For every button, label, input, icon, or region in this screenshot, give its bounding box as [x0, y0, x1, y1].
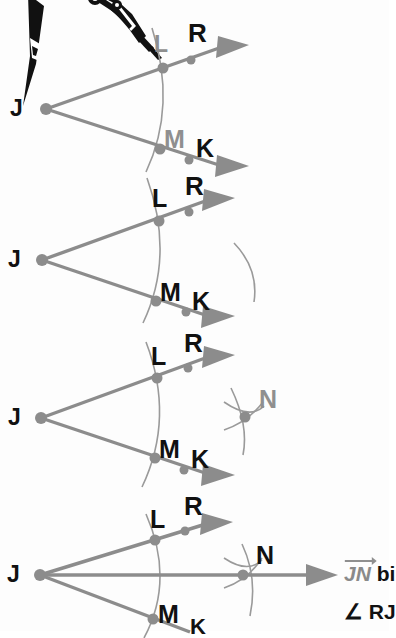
- vector-jn-label: JN: [344, 560, 377, 585]
- point-k: [180, 466, 189, 475]
- ray-jr: [42, 189, 235, 260]
- label-k: K: [190, 614, 206, 638]
- arc-from-point-l: [234, 243, 255, 302]
- point-r: [185, 208, 194, 217]
- vector-jn-text: JN: [344, 562, 371, 585]
- label-l: L: [151, 342, 166, 370]
- vector-arrow-icon: [344, 556, 377, 565]
- panel-4-step-draw-bisector-ray-jn: J L R M K N: [0, 492, 389, 638]
- label-k: K: [196, 134, 214, 162]
- caption-rest-text: bi: [377, 562, 396, 585]
- point-k: [182, 308, 191, 317]
- label-l: L: [152, 184, 167, 212]
- point-l: [158, 63, 169, 74]
- point-l: [152, 373, 163, 384]
- label-r: R: [184, 492, 203, 521]
- point-r: [187, 56, 196, 65]
- label-m: M: [160, 278, 181, 306]
- point-l: [154, 216, 165, 227]
- caption-line-2: ∠ RJ: [344, 600, 396, 624]
- panel-3-step-arcs-intersect-at-n: J L R M K N: [0, 330, 389, 505]
- ray-jn-bisector: [40, 564, 338, 586]
- point-n: [240, 412, 251, 423]
- label-l: L: [150, 505, 165, 533]
- point-j: [40, 103, 52, 115]
- point-l: [150, 535, 161, 546]
- point-j: [35, 412, 47, 424]
- point-r: [181, 527, 190, 536]
- label-r: R: [188, 18, 207, 48]
- point-m: [148, 614, 159, 625]
- label-m: M: [159, 435, 180, 463]
- ray-jr: [41, 346, 235, 418]
- point-n: [238, 570, 249, 581]
- label-m: M: [158, 600, 179, 628]
- compass-needle-leg: [23, 0, 44, 106]
- caption-line-1: JN bi: [344, 562, 395, 586]
- label-j: J: [7, 561, 20, 587]
- point-j: [34, 569, 46, 581]
- label-k: K: [191, 445, 209, 473]
- label-j: J: [8, 404, 21, 430]
- point-k: [185, 156, 194, 165]
- label-m: M: [164, 125, 185, 153]
- point-r: [184, 364, 193, 373]
- label-r: R: [184, 330, 203, 358]
- compass-pencil-leg: [80, 0, 162, 60]
- label-n: N: [259, 385, 277, 413]
- point-j: [36, 254, 48, 266]
- panel-2-step-arc-from-l: J L R M K: [0, 168, 389, 343]
- label-n: N: [256, 541, 274, 569]
- label-l: L: [154, 31, 168, 57]
- label-j: J: [8, 246, 21, 272]
- panel-1-step-draw-arc-through-rays: J L R M K: [0, 0, 389, 180]
- label-k: K: [192, 287, 210, 315]
- label-r: R: [185, 171, 204, 201]
- label-j: J: [10, 95, 23, 121]
- ray-jr: [40, 513, 233, 575]
